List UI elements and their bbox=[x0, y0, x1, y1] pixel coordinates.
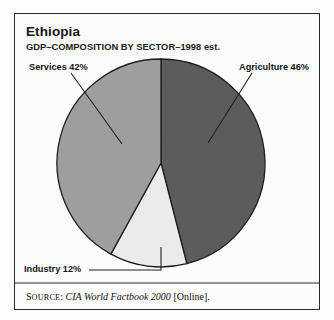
source-note: SOURCE: CIA World Factbook 2000 [Online]… bbox=[26, 291, 210, 302]
source-suffix: [Online]. bbox=[173, 291, 209, 302]
figure-page: Ethiopia GDP–COMPOSITION BY SECTOR–1998 … bbox=[0, 0, 334, 320]
source-colon: : bbox=[60, 291, 63, 302]
source-work-title: CIA World Factbook 2000 bbox=[66, 291, 171, 302]
pie-label-agriculture: Agriculture 46% bbox=[239, 62, 309, 72]
pie-label-industry: Industry 12% bbox=[24, 264, 81, 274]
pie-label-services: Services 42% bbox=[29, 62, 88, 72]
source-prefix-rest: OURCE bbox=[32, 293, 61, 302]
